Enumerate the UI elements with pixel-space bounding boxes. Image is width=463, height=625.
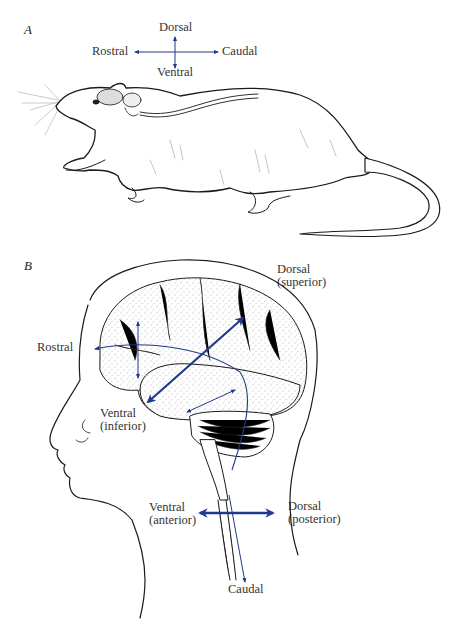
anatomy-illustration <box>0 0 463 625</box>
panel-a-compass <box>135 37 218 68</box>
rat-drawing <box>18 84 440 237</box>
brain-drawing <box>100 278 307 580</box>
